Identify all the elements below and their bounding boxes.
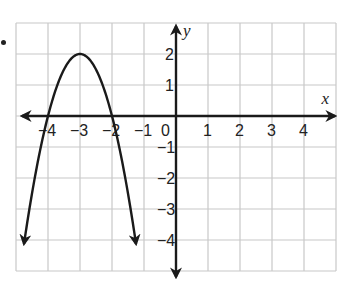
- y-tick-label: −4: [157, 232, 175, 249]
- x-tick-label: 4: [299, 122, 308, 139]
- y-tick-label: −3: [157, 201, 175, 218]
- y-tick-label: 2: [165, 46, 174, 63]
- x-tick-label: −4: [38, 122, 56, 139]
- y-axis-label: y: [181, 21, 191, 40]
- y-tick-label: −1: [157, 139, 175, 156]
- x-tick-label: −3: [70, 122, 88, 139]
- coordinate-plane: xy−4−3−2−10123421−1−2−3−4: [0, 0, 343, 284]
- y-tick-label: 1: [165, 77, 174, 94]
- x-tick-label: 2: [235, 122, 244, 139]
- x-tick-label: 0: [161, 122, 170, 139]
- x-tick-label: 3: [267, 122, 276, 139]
- x-axis-label: x: [321, 89, 330, 108]
- x-tick-label: −1: [134, 122, 152, 139]
- y-tick-label: −2: [157, 170, 175, 187]
- x-tick-label: 1: [203, 122, 212, 139]
